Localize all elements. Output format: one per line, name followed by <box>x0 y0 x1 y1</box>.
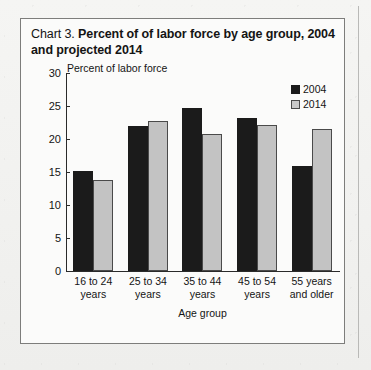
legend-item-2014: 2014 <box>291 98 326 110</box>
y-tick-label: 25 <box>49 100 61 112</box>
x-tick-label: 16 to 24years <box>66 275 121 300</box>
y-tick-label: 30 <box>49 67 61 79</box>
bar-2004 <box>182 108 202 271</box>
x-tick-label: 45 to 54years <box>230 275 285 300</box>
x-tick-label: 35 to 44years <box>175 275 230 300</box>
plot-wrapper: Percent of labor force 051015202530 2004… <box>21 19 346 345</box>
x-axis-title: Age group <box>66 307 339 319</box>
x-axis-line <box>66 271 340 272</box>
chart-figure: Chart 3. Percent of of labor force by ag… <box>20 18 345 344</box>
bar-2004 <box>73 171 93 271</box>
bar-group <box>230 73 285 271</box>
legend-label-2004: 2004 <box>303 83 326 95</box>
bar-2014 <box>148 121 168 271</box>
y-tick-label: 15 <box>49 166 61 178</box>
bar-2014 <box>93 180 113 271</box>
legend-swatch-2004 <box>291 85 300 94</box>
y-tick-label: 10 <box>49 199 61 211</box>
bar-2014 <box>202 134 222 271</box>
bar-2014 <box>312 129 332 271</box>
x-tick-label: 55 yearsand older <box>284 275 339 300</box>
y-tick-label: 5 <box>55 232 61 244</box>
legend-swatch-2014 <box>291 100 300 109</box>
bar-2004 <box>292 166 312 271</box>
legend-label-2014: 2014 <box>303 98 326 110</box>
legend-item-2004: 2004 <box>291 83 326 95</box>
y-tick-label: 20 <box>49 133 61 145</box>
bar-group <box>121 73 176 271</box>
x-axis-tick-labels: 16 to 24years25 to 34years35 to 44years4… <box>66 275 339 300</box>
x-tick-label: 25 to 34years <box>121 275 176 300</box>
bar-2004 <box>128 126 148 271</box>
bar-2004 <box>237 118 257 271</box>
bar-2014 <box>257 125 277 271</box>
page-column-rule <box>358 6 359 358</box>
y-tick-label: 0 <box>55 265 61 277</box>
bar-group <box>66 73 121 271</box>
bar-group <box>175 73 230 271</box>
chart-legend: 2004 2014 <box>291 83 326 113</box>
y-tick-mark <box>66 271 70 272</box>
